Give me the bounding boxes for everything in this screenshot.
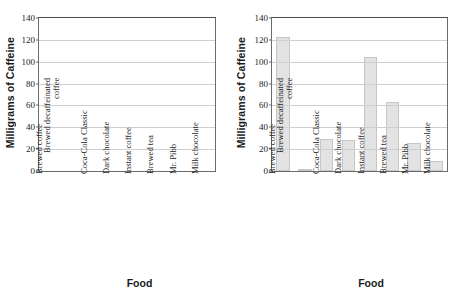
chart-panel-right: Milligrams of Caffeine 02040608010012014…: [231, 0, 463, 304]
x-axis-tick-label: Brewed tea: [146, 135, 155, 174]
gridline: [39, 62, 215, 63]
x-axis-title-left: Food: [0, 277, 255, 289]
x-axis-tick-label: Instant coffee: [124, 127, 133, 174]
x-axis-tick-label: Mr. Pibb: [169, 144, 178, 174]
gridline: [272, 84, 447, 85]
y-axis-tick-label: 120: [255, 35, 273, 45]
y-axis-tick-label: 100: [255, 57, 273, 67]
x-axis-tick-label: Brewed decaffeinated coffee: [276, 78, 295, 174]
gridline: [39, 105, 215, 106]
y-axis-tick-label: 80: [26, 79, 39, 89]
x-axis-tick-label: Brewed tea: [379, 135, 388, 174]
x-axis-tick-labels-right: Brewed coffeeBrewed decaffeinated coffee…: [271, 174, 448, 272]
y-axis-tick-label: 80: [259, 79, 272, 89]
x-axis-tick-label-slot: Brewed tea: [149, 174, 171, 272]
x-axis-tick-label-slot: Milk chocolate: [426, 174, 448, 272]
x-axis-tick-label-slot: Instant coffee: [127, 174, 149, 272]
y-axis-tick-label: 120: [22, 35, 40, 45]
x-axis-tick-label-slot: Brewed decaffeinated coffee: [293, 174, 315, 272]
gridline: [272, 105, 447, 106]
x-axis-tick-label-slot: Brewed tea: [382, 174, 404, 272]
x-axis-tick-label-slot: Dark chocolate: [337, 174, 359, 272]
x-axis-tick-label: Dark chocolate: [102, 122, 111, 174]
x-axis-tick-label: Dark chocolate: [335, 122, 344, 174]
bar: [320, 139, 334, 171]
x-axis-tick-label-slot: Dark chocolate: [105, 174, 127, 272]
y-axis-tick-label: 140: [22, 13, 40, 23]
x-axis-tick-label-slot: Instant coffee: [360, 174, 382, 272]
y-axis-tick-label: 100: [22, 57, 40, 67]
bar: [342, 140, 356, 171]
gridline: [272, 40, 447, 41]
x-axis-tick-label-slot: Coca-Cola Classic: [315, 174, 337, 272]
y-axis-title-right-text: Milligrams of Caffeine: [235, 37, 247, 148]
x-axis-tick-label-slot: Brewed coffee: [271, 174, 293, 272]
x-axis-tick-label: Coca-Cola Classic: [312, 110, 321, 174]
x-axis-tick-label: Coca-Cola Classic: [80, 110, 89, 174]
x-axis-tick-label-slot: Coca-Cola Classic: [83, 174, 105, 272]
x-axis-tick-label-slot: Mr. Pibb: [404, 174, 426, 272]
x-axis-tick-label: Milk chocolate: [191, 122, 200, 174]
two-panel-bar-chart-figure: Milligrams of Caffeine 02040608010012014…: [0, 0, 463, 304]
x-axis-title-right: Food: [231, 277, 463, 289]
gridline: [39, 84, 215, 85]
x-axis-tick-label-slot: Mr. Pibb: [172, 174, 194, 272]
bar: [298, 169, 312, 171]
y-axis-title-left: Milligrams of Caffeine: [2, 18, 18, 168]
y-axis-tick-label: 60: [26, 100, 39, 110]
x-axis-tick-label: Mr. Pibb: [401, 144, 410, 174]
chart-panel-left: Milligrams of Caffeine 02040608010012014…: [0, 0, 231, 304]
y-axis-title-left-text: Milligrams of Caffeine: [4, 37, 16, 148]
y-axis-tick-label: 60: [259, 100, 272, 110]
gridline: [272, 62, 447, 63]
x-axis-tick-labels-left: Brewed coffeeBrewed decaffeinated coffee…: [38, 174, 216, 272]
y-axis-title-right: Milligrams of Caffeine: [233, 18, 249, 168]
gridline: [39, 40, 215, 41]
x-axis-tick-label-slot: Brewed decaffeinated coffee: [60, 174, 82, 272]
x-axis-tick-label: Instant coffee: [357, 127, 366, 174]
x-axis-tick-label: Brewed decaffeinated coffee: [44, 78, 63, 174]
y-axis-tick-label: 140: [255, 13, 273, 23]
x-axis-tick-label-slot: Brewed coffee: [38, 174, 60, 272]
x-axis-tick-label: Milk chocolate: [423, 122, 432, 174]
x-axis-tick-label-slot: Milk chocolate: [194, 174, 216, 272]
